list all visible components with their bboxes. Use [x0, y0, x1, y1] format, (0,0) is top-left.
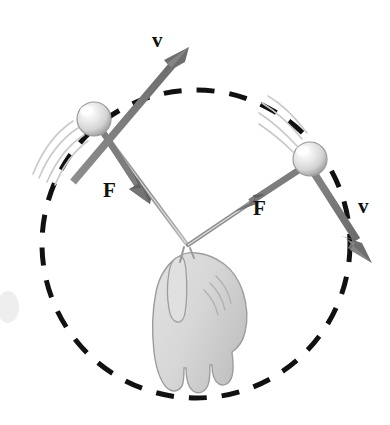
force-label-right: F [253, 198, 266, 219]
hand-grip [153, 247, 247, 393]
force-label-left: F [103, 180, 116, 201]
ball-left [77, 102, 111, 136]
velocity-label-top: v [152, 30, 163, 51]
velocity-label-right: v [358, 196, 369, 217]
physics-figure-circular-motion: v v F F [0, 0, 390, 425]
figure-canvas [0, 0, 390, 425]
ball-right [293, 142, 327, 176]
paper-smudge [0, 291, 19, 323]
